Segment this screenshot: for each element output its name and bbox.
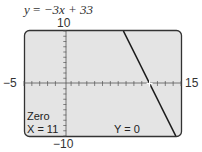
calc-mode-label: Zero	[27, 110, 50, 122]
x-readout: X = 11	[27, 123, 58, 135]
x-axis-ticks	[24, 81, 181, 86]
y-readout: Y = 0	[114, 123, 140, 135]
